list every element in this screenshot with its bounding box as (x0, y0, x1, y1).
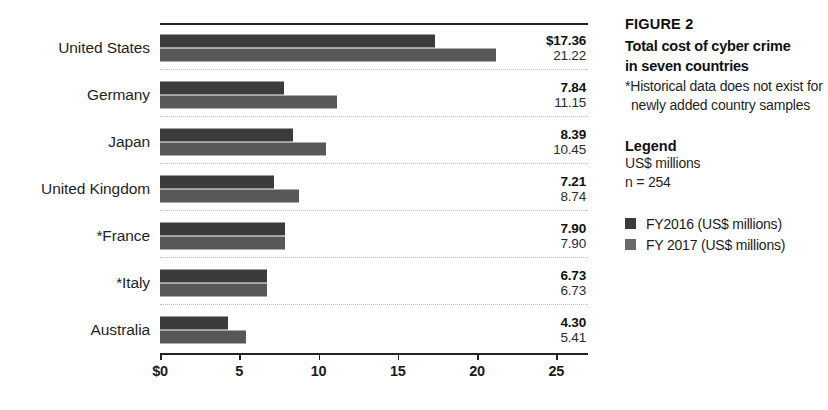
x-tick-mark (319, 355, 321, 360)
chart-row: Japan8.3910.45 (0, 118, 610, 165)
row-values: 7.907.90 (500, 220, 586, 250)
legend-key-label: FY2016 (US$ millions) (646, 216, 782, 232)
bar-fy2017 (160, 330, 246, 343)
x-tick-label: 25 (548, 363, 564, 379)
chart-row: Australia4.305.41 (0, 306, 610, 353)
bar-group (160, 269, 267, 296)
row-label-united-kingdom: United Kingdom (0, 180, 150, 198)
row-label-italy: *Italy (0, 274, 150, 292)
x-tick-mark (556, 355, 558, 360)
x-tick-mark (477, 355, 479, 360)
x-tick-mark (160, 355, 162, 360)
chart-row: United Kingdom7.218.74 (0, 165, 610, 212)
x-axis-ticks (160, 355, 588, 360)
legend-keys: FY2016 (US$ millions)FY 2017 (US$ millio… (625, 213, 825, 255)
figure-footnote: *Historical data does not exist for newl… (625, 77, 825, 116)
value-label-fy2017: 11.15 (500, 95, 586, 110)
legend-key-label: FY 2017 (US$ millions) (646, 237, 785, 253)
chart-row: *France7.907.90 (0, 212, 610, 259)
figure-title-line1: Total cost of cyber crime (625, 38, 791, 54)
legend-swatch-icon (625, 239, 636, 250)
bar-fy2016 (160, 316, 228, 329)
bar-fy2017 (160, 48, 496, 61)
legend-sample-size: n = 254 (625, 173, 825, 192)
row-values: $17.3621.22 (500, 32, 586, 62)
row-label-japan: Japan (0, 133, 150, 151)
bar-fy2017 (160, 95, 337, 108)
bar-group (160, 222, 285, 249)
x-tick-label: 15 (390, 363, 406, 379)
bar-fy2016 (160, 269, 267, 282)
bar-group (160, 175, 299, 202)
x-tick-mark (398, 355, 400, 360)
figure-title-line2: in seven countries (625, 58, 749, 74)
x-axis-labels: $0510152025 (0, 363, 610, 385)
row-label-australia: Australia (0, 321, 150, 339)
value-label-fy2017: 10.45 (500, 142, 586, 157)
row-label-france: *France (0, 227, 150, 245)
value-label-fy2016: 6.73 (500, 267, 586, 282)
value-label-fy2016: 7.90 (500, 220, 586, 235)
x-tick-label: 5 (235, 363, 243, 379)
legend-swatch-icon (625, 218, 636, 229)
x-tick-label: 10 (311, 363, 327, 379)
row-label-germany: Germany (0, 86, 150, 104)
x-tick-label: $0 (152, 363, 168, 379)
bar-group (160, 34, 496, 61)
bar-fy2016 (160, 128, 293, 141)
legend-key: FY 2017 (US$ millions) (625, 234, 825, 255)
bar-group (160, 128, 326, 155)
bar-fy2016 (160, 222, 285, 235)
figure-number: FIGURE 2 (625, 16, 825, 32)
value-label-fy2016: 4.30 (500, 314, 586, 329)
bar-fy2017 (160, 283, 267, 296)
bar-fy2017 (160, 189, 299, 202)
value-label-fy2017: 7.90 (500, 236, 586, 251)
chart-rows: United States$17.3621.22Germany7.8411.15… (0, 24, 610, 353)
row-values: 6.736.73 (500, 267, 586, 297)
bar-fy2017 (160, 236, 285, 249)
legend-key: FY2016 (US$ millions) (625, 213, 825, 234)
chart-row: United States$17.3621.22 (0, 24, 610, 71)
bar-group (160, 81, 337, 108)
x-tick-mark (239, 355, 241, 360)
row-values: 8.3910.45 (500, 126, 586, 156)
figure-caption-panel: FIGURE 2 Total cost of cyber crime in se… (625, 16, 825, 255)
value-label-fy2016: 8.39 (500, 126, 586, 141)
chart-row: Germany7.8411.15 (0, 71, 610, 118)
legend-heading: Legend (625, 138, 825, 154)
bar-group (160, 316, 246, 343)
row-values: 7.8411.15 (500, 79, 586, 109)
legend-units: US$ millions (625, 154, 825, 173)
bar-fy2016 (160, 175, 274, 188)
bar-fy2016 (160, 34, 435, 47)
value-label-fy2017: 5.41 (500, 330, 586, 345)
value-label-fy2016: 7.84 (500, 79, 586, 94)
chart-panel: United States$17.3621.22Germany7.8411.15… (0, 0, 610, 410)
chart-row: *Italy6.736.73 (0, 259, 610, 306)
row-label-united-states: United States (0, 39, 150, 57)
x-tick-label: 20 (469, 363, 485, 379)
value-label-fy2017: 8.74 (500, 189, 586, 204)
bar-fy2017 (160, 142, 326, 155)
value-label-fy2016: $17.36 (500, 32, 586, 47)
value-label-fy2017: 6.73 (500, 283, 586, 298)
figure-title: Total cost of cyber crime in seven count… (625, 37, 825, 76)
row-values: 4.305.41 (500, 314, 586, 344)
value-label-fy2016: 7.21 (500, 173, 586, 188)
value-label-fy2017: 21.22 (500, 48, 586, 63)
bar-fy2016 (160, 81, 284, 94)
row-values: 7.218.74 (500, 173, 586, 203)
